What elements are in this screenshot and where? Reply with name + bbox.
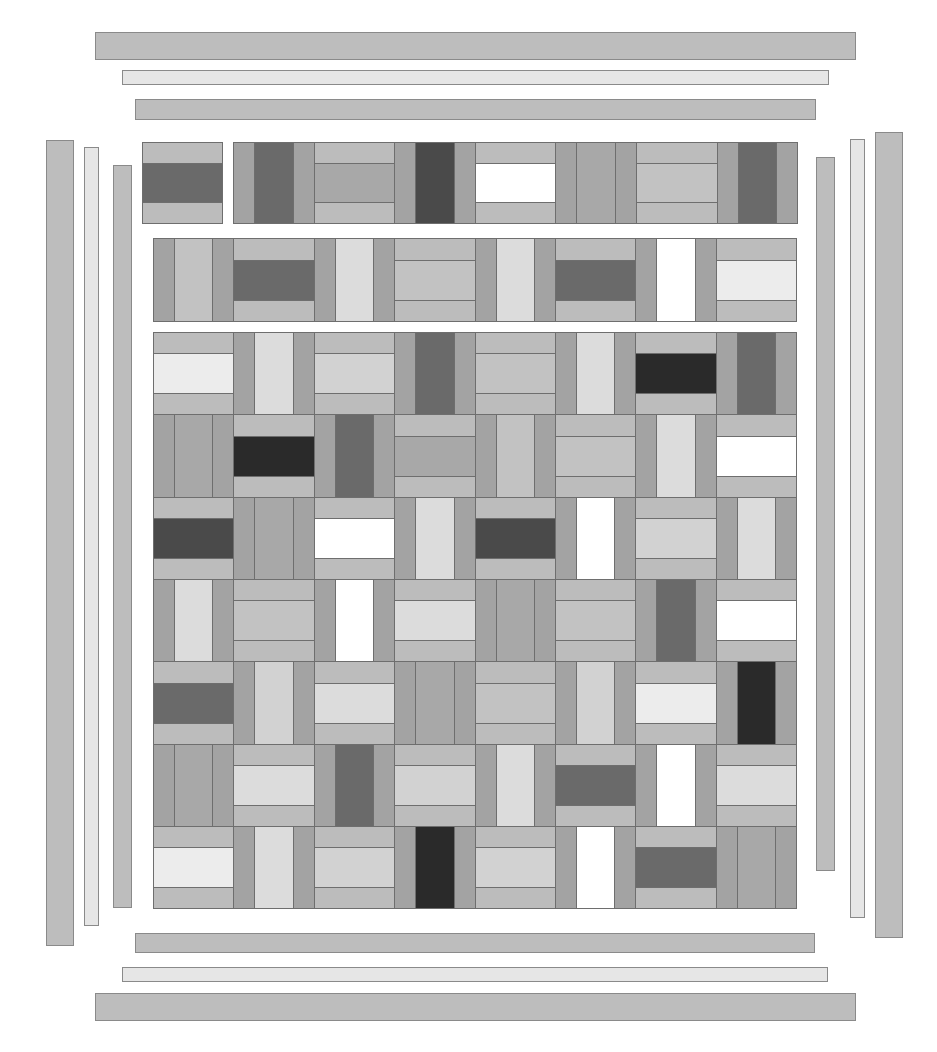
rail-center (315, 683, 394, 724)
rail-right (374, 415, 394, 497)
grid-block-r3-c8 (716, 497, 797, 580)
rail-right (374, 580, 394, 661)
grid-block-r5-c4 (394, 661, 476, 745)
rail-center (234, 600, 314, 641)
rail-bottom (315, 724, 394, 745)
rail-center (254, 333, 294, 414)
rail-center (335, 745, 375, 826)
rail-left (636, 415, 656, 497)
rail-left (636, 239, 656, 321)
rail-center (254, 827, 294, 908)
rail-center (254, 498, 294, 579)
rail-left (395, 333, 415, 414)
rail-center (576, 143, 616, 223)
grid-block-r7-c7 (635, 826, 717, 909)
rail-top (143, 143, 222, 163)
rail-center (717, 600, 796, 641)
rail-bottom (476, 394, 555, 414)
rail-bottom (476, 888, 555, 908)
rail-bottom (154, 888, 233, 908)
top-border-strip-3 (135, 99, 816, 120)
grid-block-r3-c6 (555, 497, 636, 580)
rail-center (556, 260, 635, 301)
rail-top (234, 415, 314, 436)
grid-block-r4-c5 (475, 579, 556, 662)
grid-block-r2-c5 (475, 414, 556, 498)
left-border-strip-2 (84, 147, 99, 926)
rail-bottom (637, 203, 717, 223)
grid-block-r3-c1 (153, 497, 234, 580)
bottom-border-strip-1 (135, 933, 815, 953)
rail-center (576, 827, 616, 908)
rail-top (476, 333, 555, 353)
rail-right (294, 333, 314, 414)
rail-top (234, 239, 314, 260)
rail-left (718, 143, 738, 223)
rail-left (315, 580, 335, 661)
rail-left (234, 143, 254, 223)
grid-block-r2-c7 (635, 414, 717, 498)
rail-top (395, 745, 475, 765)
rail-left (234, 827, 254, 908)
grid-block-r5-c7 (635, 661, 717, 745)
grid-block-r7-c5 (475, 826, 556, 909)
grid-block-r4-c8 (716, 579, 797, 662)
rail-left (556, 827, 576, 908)
rail-right (535, 580, 555, 661)
grid-block-r5-c1 (153, 661, 234, 745)
rail-center (636, 683, 716, 724)
rail-bottom (556, 301, 635, 322)
rail-left (476, 745, 496, 826)
rail-top (717, 745, 796, 765)
rail-top (556, 239, 635, 260)
rail-top (234, 745, 314, 765)
rail-right (776, 827, 796, 908)
rail-center (576, 333, 616, 414)
grid-block-r4-c4 (394, 579, 476, 662)
bottom-border-strip-2 (122, 967, 828, 982)
rail-center (415, 498, 455, 579)
rail-top (717, 239, 796, 260)
grid-block-r4-c2 (233, 579, 315, 662)
rail-center (234, 436, 314, 477)
grid-block-r1-c4 (394, 332, 476, 415)
grid-block-r5-c8 (716, 661, 797, 745)
rail-center (315, 518, 394, 559)
rail-left (476, 580, 496, 661)
rail-right (535, 415, 555, 497)
grid-block-r7-c4 (394, 826, 476, 909)
rail-right (777, 143, 797, 223)
rail-bottom (717, 641, 796, 661)
grid-block-r1-c6 (555, 332, 636, 415)
rail-bottom (476, 559, 555, 579)
rail-left (395, 827, 415, 908)
rail-top (315, 827, 394, 847)
rail-left (395, 143, 415, 223)
rail-center (335, 239, 375, 321)
rail-right (213, 745, 233, 826)
rail-center (174, 580, 214, 661)
right-border-strip-2 (850, 139, 865, 918)
rail-center (556, 765, 635, 806)
rail-right (213, 580, 233, 661)
rail-left (556, 143, 576, 223)
rail-left (154, 580, 174, 661)
rail-center (395, 436, 475, 477)
rail-bottom (395, 301, 475, 322)
rail-top (395, 415, 475, 436)
rail-bottom (234, 641, 314, 661)
rail-center (143, 163, 222, 203)
rail-right (294, 662, 314, 744)
rail-bottom (315, 394, 394, 414)
grid-block-r4-c6 (555, 579, 636, 662)
rail-center (717, 260, 796, 301)
rail-bottom (556, 641, 635, 661)
rail-center (496, 415, 536, 497)
rail-right (696, 415, 716, 497)
rail-center (556, 600, 635, 641)
grid-block-r1-c8 (716, 332, 797, 415)
rail-center (496, 239, 536, 321)
grid-block-r2-c4 (394, 414, 476, 498)
rail-top (315, 662, 394, 683)
rail-left (717, 827, 737, 908)
